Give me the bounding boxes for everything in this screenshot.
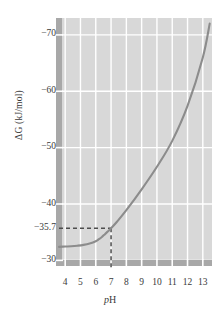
y-tick-label: −30 (12, 254, 56, 264)
y-axis-title: ΔG (kJ/mol) (14, 60, 24, 170)
y-tick-label-group: −70−60−50−40−35.7−30 (0, 0, 56, 316)
x-tick-label: 5 (73, 277, 87, 287)
x-axis-title: pH (0, 294, 220, 305)
x-tick-label: 13 (196, 277, 210, 287)
x-tick-label: 8 (119, 277, 133, 287)
x-tick-label: 12 (181, 277, 195, 287)
x-axis-spine (56, 260, 212, 266)
x-tick-label: 4 (58, 277, 72, 287)
x-tick-label: 6 (89, 277, 103, 287)
x-tick-label: 10 (150, 277, 164, 287)
y-tick-label: −70 (12, 28, 56, 38)
y-tick-label: −35.7 (12, 222, 56, 232)
x-tick-label: 7 (104, 277, 118, 287)
plot-background (56, 18, 212, 266)
x-tick-label: 9 (135, 277, 149, 287)
figure-canvas: −70−60−50−40−35.7−30 45678910111213 ΔG (… (0, 0, 220, 316)
y-tick-label: −40 (12, 198, 56, 208)
x-axis-title-h: H (109, 294, 116, 305)
x-tick-label: 11 (165, 277, 179, 287)
